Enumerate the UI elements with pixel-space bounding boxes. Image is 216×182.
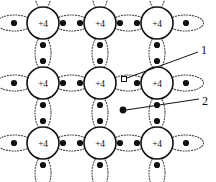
valence-electron-dot [154,162,160,168]
atom-core: +4 [84,127,116,159]
atom-core: +4 [84,67,116,99]
valence-electron-dot [134,140,140,146]
atom-core-charge-label: +4 [152,79,162,89]
valence-electron-dot [40,42,46,48]
valence-electron-dot [40,162,46,168]
valence-electron-dot [183,80,189,86]
valence-electron-dot [183,20,189,26]
vertical-bond-orbital [35,36,51,70]
atom-core: +4 [141,7,173,39]
valence-electron-dot [117,140,123,146]
lattice-figure: +4+4+4+4+4+4+4+4+4 12 [0,0,216,182]
vertical-bond-orbital [92,36,108,70]
vertical-bond-orbital [92,96,108,130]
valence-electron-dot [40,58,46,64]
vertical-bond-orbital [35,96,51,130]
defect-marker-layer [120,77,127,114]
valence-electron-dot [154,42,160,48]
valence-electron-dot [134,80,140,86]
valence-electron-dot [77,80,83,86]
valence-electron-dot [97,162,103,168]
valence-electron-dot [97,42,103,48]
valence-electron-dot [40,102,46,108]
atom-core-charge-label: +4 [95,139,105,149]
atom-core: +4 [27,67,59,99]
callout-number-label: 2 [202,94,208,108]
valence-electron-dot [97,118,103,124]
valence-electron-dot [40,118,46,124]
atom-core-charge-label: +4 [95,79,105,89]
valence-electron-dot [77,20,83,26]
lattice-diagram-canvas: +4+4+4+4+4+4+4+4+4 12 [0,0,216,182]
atom-core: +4 [141,67,173,99]
atom-core: +4 [141,127,173,159]
atom-core-charge-label: +4 [38,19,48,29]
valence-electron-dot [11,80,17,86]
valence-electron-dot [154,58,160,64]
atom-core-layer: +4+4+4+4+4+4+4+4+4 [27,7,173,159]
valence-electron-dot [11,20,17,26]
callout-number-label: 1 [201,43,207,57]
hole-marker-square [122,77,127,82]
edge-bond-orbital [92,156,108,182]
valence-electron-dot [77,140,83,146]
valence-electron-dot [134,20,140,26]
edge-bond-orbital [149,156,165,182]
valence-electron-dot [117,20,123,26]
edge-bond-orbital [35,156,51,182]
valence-electron-dot [183,140,189,146]
valence-electron-dot [11,140,17,146]
valence-electron-dot [60,140,66,146]
atom-core: +4 [27,7,59,39]
free-electron-marker-dot [120,107,127,114]
atom-core-charge-label: +4 [38,139,48,149]
valence-electron-dot [97,58,103,64]
valence-electron-dot [60,20,66,26]
atom-core-charge-label: +4 [152,139,162,149]
vertical-bond-orbital [149,96,165,130]
atom-core: +4 [84,7,116,39]
atom-core-charge-label: +4 [38,79,48,89]
atom-core: +4 [27,127,59,159]
atom-core-charge-label: +4 [152,19,162,29]
valence-electron-dot [154,118,160,124]
atom-core-charge-label: +4 [95,19,105,29]
valence-electron-dot [97,102,103,108]
valence-electron-dot [60,80,66,86]
